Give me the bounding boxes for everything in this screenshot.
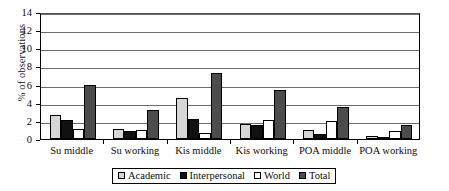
legend-label: Interpersonal xyxy=(190,170,245,181)
x-axis-label-kis-working: Kis working xyxy=(230,145,293,156)
bar-kis-working-total xyxy=(274,90,286,139)
plot-area xyxy=(40,13,420,140)
bar-poa-middle-academic xyxy=(303,130,315,139)
legend-item-world: World xyxy=(254,170,290,181)
x-axis-label-su-middle: Su middle xyxy=(40,145,103,156)
bar-chart: % of observations 02468101214 Su middleS… xyxy=(0,0,449,191)
legend-item-interpersonal: Interpersonal xyxy=(180,170,245,181)
legend-label: Academic xyxy=(128,170,171,181)
bar-group-kis-working xyxy=(231,14,294,139)
bar-poa-working-world xyxy=(389,131,401,139)
x-axis-label-su-working: Su working xyxy=(103,145,166,156)
bar-kis-working-world xyxy=(263,120,275,140)
bar-kis-working-academic xyxy=(240,124,252,139)
bar-kis-middle-interpersonal xyxy=(188,119,200,139)
bar-poa-middle-world xyxy=(326,121,338,139)
bars-layer xyxy=(41,14,419,139)
legend-swatch-academic-icon xyxy=(118,172,125,179)
bar-poa-middle-total xyxy=(337,107,349,139)
bar-group-su-working xyxy=(104,14,167,139)
bar-poa-working-total xyxy=(401,125,413,139)
legend-swatch-total-icon xyxy=(299,172,306,179)
bar-poa-working-interpersonal xyxy=(378,137,390,139)
x-axis-labels: Su middleSu workingKis middleKis working… xyxy=(40,145,420,161)
bar-su-middle-total xyxy=(84,85,96,139)
x-tick-mark xyxy=(167,140,168,144)
legend-label: World xyxy=(264,170,290,181)
x-axis-label-poa-middle: POA middle xyxy=(293,145,356,156)
y-axis-title: % of observations xyxy=(16,0,27,128)
y-tick-label: 0 xyxy=(12,135,32,145)
legend-item-total: Total xyxy=(299,170,330,181)
bar-su-working-academic xyxy=(113,129,125,139)
bar-kis-middle-academic xyxy=(176,98,188,139)
bar-group-poa-working xyxy=(358,14,421,139)
legend: AcademicInterpersonalWorldTotal xyxy=(112,168,336,184)
bar-su-middle-interpersonal xyxy=(61,120,73,139)
legend-label: Total xyxy=(309,170,330,181)
bar-kis-working-interpersonal xyxy=(251,125,263,139)
bar-kis-middle-total xyxy=(211,73,223,139)
bar-poa-working-academic xyxy=(366,136,378,139)
bar-su-working-total xyxy=(147,110,159,139)
bar-group-su-middle xyxy=(41,14,104,139)
bar-su-working-world xyxy=(136,130,148,139)
bar-su-middle-world xyxy=(73,129,85,139)
x-axis-label-poa-working: POA working xyxy=(357,145,420,156)
bar-poa-middle-interpersonal xyxy=(314,134,326,139)
bar-su-working-interpersonal xyxy=(124,131,136,139)
legend-swatch-world-icon xyxy=(254,172,261,179)
legend-swatch-interpersonal-icon xyxy=(180,172,187,179)
bar-su-middle-academic xyxy=(50,115,62,139)
x-axis-label-kis-middle: Kis middle xyxy=(167,145,230,156)
bar-kis-middle-world xyxy=(199,133,211,139)
legend-item-academic: Academic xyxy=(118,170,171,181)
bar-group-poa-middle xyxy=(294,14,357,139)
bar-group-kis-middle xyxy=(168,14,231,139)
x-tick-mark xyxy=(230,140,231,144)
x-tick-mark xyxy=(357,140,358,144)
x-tick-mark xyxy=(103,140,104,144)
x-tick-mark xyxy=(293,140,294,144)
